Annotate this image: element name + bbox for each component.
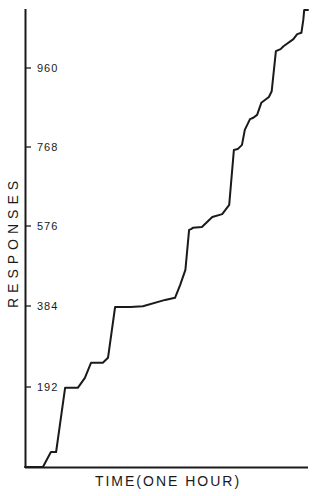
x-axis-label: TIME(ONE HOUR)	[95, 473, 241, 489]
tick-label-576: 576	[37, 220, 58, 232]
y-ticks	[26, 68, 31, 387]
tick-label-384: 384	[37, 300, 58, 312]
tick-label-768: 768	[37, 141, 58, 153]
cumulative-response-curve	[25, 10, 308, 467]
cumulative-record-chart: 192 384 576 768 960 RESPONSES TIME(ONE H…	[0, 0, 316, 496]
tick-label-192: 192	[37, 381, 58, 393]
tick-label-960: 960	[37, 62, 58, 74]
y-tick-labels: 192 384 576 768 960	[37, 62, 58, 393]
y-axis-label: RESPONSES	[5, 176, 21, 308]
